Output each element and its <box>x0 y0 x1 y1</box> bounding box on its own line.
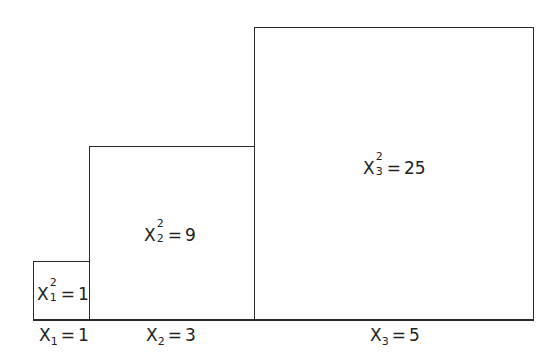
base-label-x2: X2=3 <box>146 327 196 344</box>
subscript: 3 <box>382 335 389 348</box>
value: 1 <box>78 284 89 304</box>
equals-sign: = <box>61 325 75 345</box>
variable: X <box>39 325 51 345</box>
value: 9 <box>185 225 196 245</box>
equals-sign: = <box>61 284 75 304</box>
value: 5 <box>409 325 420 345</box>
area-label-x1: X21=1 <box>37 283 89 303</box>
area-label-x3: X23=25 <box>363 157 426 177</box>
value: 1 <box>78 325 89 345</box>
subscript: 1 <box>50 292 57 303</box>
base-label-x3: X3=5 <box>370 327 420 344</box>
equals-sign: = <box>387 158 401 178</box>
subscript: 1 <box>51 335 58 348</box>
base-label-x1: X1=1 <box>39 327 89 344</box>
variable: X <box>37 284 49 304</box>
script-stack: 21 <box>49 283 58 300</box>
value: 25 <box>404 158 426 178</box>
variable: X <box>146 325 158 345</box>
variable: X <box>144 225 156 245</box>
equals-sign: = <box>168 225 182 245</box>
equals-sign: = <box>168 325 182 345</box>
script-stack: 23 <box>375 157 384 174</box>
value: 3 <box>185 325 196 345</box>
superscript: 2 <box>376 151 383 162</box>
superscript: 2 <box>50 277 57 288</box>
subscript: 2 <box>158 335 165 348</box>
subscript: 2 <box>157 233 164 244</box>
area-label-x2: X22=9 <box>144 224 196 244</box>
baseline <box>33 319 534 320</box>
script-stack: 22 <box>156 224 165 241</box>
subscript: 3 <box>376 166 383 177</box>
equals-sign: = <box>392 325 406 345</box>
variable: X <box>363 158 375 178</box>
superscript: 2 <box>157 218 164 229</box>
variable: X <box>370 325 382 345</box>
